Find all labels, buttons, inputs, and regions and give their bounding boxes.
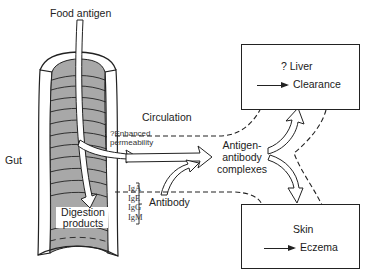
enhanced-permeability-label: ?Enhanced permeability [110,129,153,147]
enhanced-permeability-line2: permeability [110,138,153,147]
liver-box: ? Liver Clearance [241,44,360,110]
food-antigen-label: Food antigen [50,7,111,19]
complexes-label: Antigen- antibody complexes [212,139,272,175]
gut-to-complexes-arrow [126,146,212,168]
antibody-class-igm: IgM [128,213,143,223]
liver-outcome: Clearance [293,78,341,90]
antibody-classes-list: IgA IgE IgG IgM [128,184,143,222]
liver-outcome-row: Clearance [257,78,341,90]
gut-label: Gut [5,154,22,166]
skin-outcome-row: Eczema [264,241,338,253]
complexes-line2: antibody [212,151,272,163]
skin-box: Skin Eczema [241,204,360,269]
complexes-to-liver-arrow [268,108,304,154]
circulation-label: Circulation [142,111,192,123]
skin-outcome: Eczema [300,241,338,253]
digestion-products-line2: products [58,218,108,229]
diagram-canvas: Food antigen Gut Circulation ?Enhanced p… [0,0,369,275]
skin-title: Skin [293,223,313,235]
right-arrow-icon [264,248,294,249]
liver-title: ? Liver [281,60,313,72]
enhanced-permeability-line1: ?Enhanced [110,129,153,138]
digestion-products-label: Digestion products [58,207,108,228]
right-arrow-icon [257,85,287,86]
digestion-products-line1: Digestion [58,207,108,218]
antibody-label: Antibody [149,196,190,208]
complexes-line1: Antigen- [212,139,272,151]
complexes-line3: complexes [212,163,272,175]
antibody-to-complexes-arrow [161,160,199,195]
